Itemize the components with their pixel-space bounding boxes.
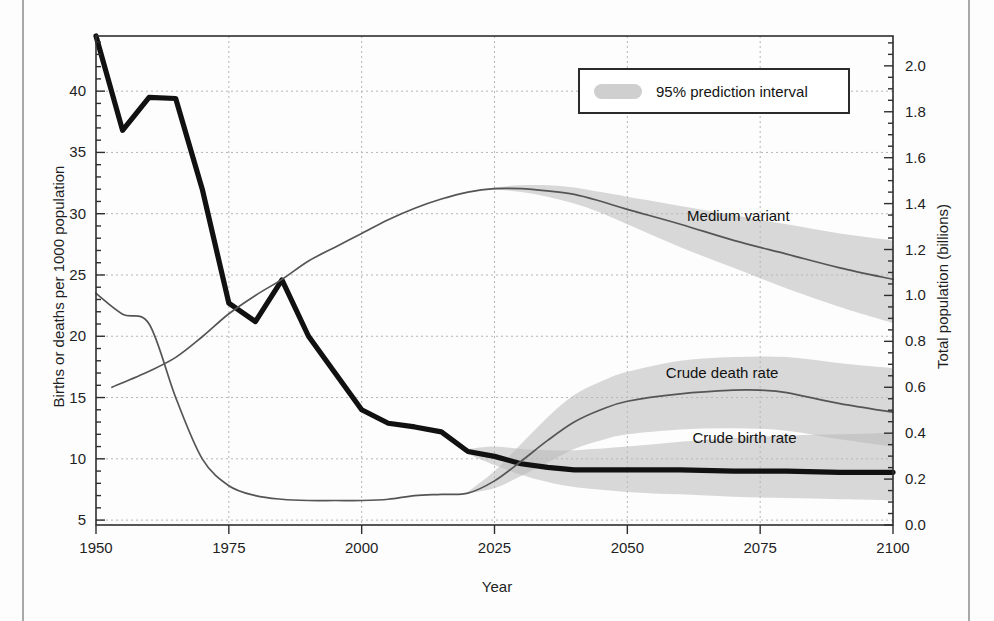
x-axis-tick-2050: 2050 <box>592 539 662 556</box>
x-axis-tick-2025: 2025 <box>460 539 530 556</box>
y-axis-right-tick-1.8: 1.8 <box>905 103 945 120</box>
y-axis-left-tick-10: 10 <box>52 450 86 467</box>
x-axis-tick-2075: 2075 <box>725 539 795 556</box>
page-rule-right <box>968 0 970 621</box>
x-axis-tick-1975: 1975 <box>194 539 264 556</box>
y-axis-right-tick-1.6: 1.6 <box>905 149 945 166</box>
x-axis-tick-2100: 2100 <box>858 539 928 556</box>
y-axis-left-tick-25: 25 <box>52 266 86 283</box>
y-axis-left-tick-5: 5 <box>52 511 86 528</box>
y-axis-right-tick-0.0: 0.0 <box>905 516 945 533</box>
series-label-crude-birth-rate: Crude birth rate <box>692 429 796 446</box>
y-axis-left-tick-15: 15 <box>52 389 86 406</box>
figure-panel: Births or deaths per 1000 population Tot… <box>0 0 994 621</box>
page-rule-left <box>22 0 24 621</box>
y-axis-right-tick-1.2: 1.2 <box>905 241 945 258</box>
y-axis-right-tick-0.6: 0.6 <box>905 378 945 395</box>
y-axis-left-tick-35: 35 <box>52 143 86 160</box>
x-axis-tick-2000: 2000 <box>327 539 397 556</box>
x-axis-title: Year <box>0 578 994 595</box>
y-axis-left-tick-20: 20 <box>52 327 86 344</box>
y-axis-left-tick-30: 30 <box>52 205 86 222</box>
y-axis-right-tick-1.4: 1.4 <box>905 195 945 212</box>
legend-swatch-prediction-interval <box>594 84 642 99</box>
y-axis-right-tick-0.2: 0.2 <box>905 470 945 487</box>
legend-box: 95% prediction interval <box>578 68 850 114</box>
legend-label-prediction-interval: 95% prediction interval <box>656 83 808 100</box>
x-axis-tick-1950: 1950 <box>61 539 131 556</box>
series-label-crude-death-rate: Crude death rate <box>666 364 779 381</box>
series-label-medium-variant: Medium variant <box>687 207 790 224</box>
y-axis-right-tick-2.0: 2.0 <box>905 57 945 74</box>
y-axis-right-tick-0.4: 0.4 <box>905 424 945 441</box>
y-axis-right-tick-0.8: 0.8 <box>905 332 945 349</box>
y-axis-left-tick-40: 40 <box>52 82 86 99</box>
y-axis-right-tick-1.0: 1.0 <box>905 286 945 303</box>
